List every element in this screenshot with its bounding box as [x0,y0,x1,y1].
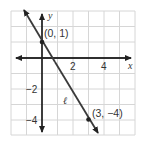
point-0-1 [40,40,45,45]
y-tick-neg2: −2 [26,84,38,95]
coordinate-plane: y x 2 4 −2 −4 (0, 1) (3, −4) ℓ [0,0,143,147]
x-tick-2: 2 [70,61,76,72]
line-l-label: ℓ [63,95,67,106]
point-0-1-label: (0, 1) [44,27,69,39]
point-3-neg4 [86,117,91,122]
x-axis-label: x [127,60,133,71]
y-axis-label: y [47,10,53,21]
y-tick-neg4: −4 [26,115,38,126]
x-tick-4: 4 [101,61,107,72]
point-3-neg4-label: (3, −4) [92,107,123,119]
